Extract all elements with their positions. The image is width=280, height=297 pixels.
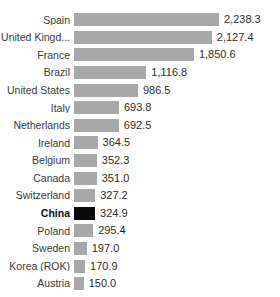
bar-track: 351.0 [74, 169, 280, 187]
value-label: 2,238.3 [219, 14, 261, 25]
bar-row: Korea (ROK)170.9 [0, 257, 280, 275]
bar-track: 692.5 [74, 117, 280, 135]
bar-row: Spain2,238.3 [0, 11, 280, 29]
bar-track: 693.8 [74, 99, 280, 117]
bar [74, 31, 212, 44]
category-label: Poland [0, 226, 74, 237]
bar [74, 66, 146, 79]
value-label: 1,116.8 [146, 67, 187, 78]
bar-row: Switzerland327.2 [0, 187, 280, 205]
bar-row: Canada351.0 [0, 169, 280, 187]
bar-track: 150.0 [74, 275, 280, 293]
bar [74, 119, 119, 132]
bar [74, 189, 95, 202]
value-label: 692.5 [119, 120, 152, 131]
value-label: 364.5 [98, 137, 131, 148]
value-label: 327.2 [95, 190, 128, 201]
bar [74, 101, 119, 114]
category-label: Sweden [0, 243, 74, 254]
value-label: 693.8 [119, 102, 152, 113]
category-label: Belgium [0, 155, 74, 166]
bar [74, 13, 219, 26]
bar-track: 986.5 [74, 81, 280, 99]
bar-row: Belgium352.3 [0, 152, 280, 170]
category-label: United Kingd... [0, 32, 74, 43]
category-label: Canada [0, 173, 74, 184]
bar-track: 1,116.8 [74, 64, 280, 82]
bar [74, 207, 95, 220]
bar-track: 197.0 [74, 240, 280, 258]
bar-row: Ireland364.5 [0, 134, 280, 152]
category-label: Brazil [0, 67, 74, 78]
bar-row: Sweden197.0 [0, 240, 280, 258]
category-label: Austria [0, 278, 74, 289]
bar [74, 224, 93, 237]
bar-track: 352.3 [74, 152, 280, 170]
value-label: 197.0 [87, 243, 120, 254]
bar-row: China324.9 [0, 205, 280, 223]
category-label: Ireland [0, 138, 74, 149]
category-label: China [0, 208, 74, 219]
horizontal-bar-chart: Spain2,238.3United Kingd...2,127.4France… [0, 0, 280, 297]
value-label: 352.3 [97, 155, 130, 166]
bar-track: 327.2 [74, 187, 280, 205]
value-label: 2,127.4 [212, 32, 254, 43]
bar [74, 136, 98, 149]
value-label: 324.9 [95, 208, 128, 219]
bar-row: Netherlands692.5 [0, 117, 280, 135]
bar-rows-container: Spain2,238.3United Kingd...2,127.4France… [0, 11, 280, 293]
bar-track: 295.4 [74, 222, 280, 240]
bar-row: United Kingd...2,127.4 [0, 29, 280, 47]
value-label: 150.0 [84, 278, 117, 289]
bar [74, 172, 97, 185]
bar [74, 242, 87, 255]
bar [74, 154, 97, 167]
bar-track: 364.5 [74, 134, 280, 152]
category-label: France [0, 50, 74, 61]
bar [74, 260, 85, 273]
value-label: 351.0 [97, 173, 130, 184]
bar-row: Italy693.8 [0, 99, 280, 117]
value-label: 170.9 [85, 261, 118, 272]
category-label: Switzerland [0, 190, 74, 201]
bar-track: 1,850.6 [74, 46, 280, 64]
category-label: Korea (ROK) [0, 261, 74, 272]
value-label: 295.4 [93, 225, 126, 236]
bar-track: 324.9 [74, 205, 280, 223]
category-label: Netherlands [0, 120, 74, 131]
bar-track: 170.9 [74, 257, 280, 275]
bar-row: Brazil1,116.8 [0, 64, 280, 82]
bar [74, 277, 84, 290]
bar [74, 48, 194, 61]
bar-row: United States986.5 [0, 81, 280, 99]
value-label: 986.5 [138, 85, 171, 96]
bar-row: Poland295.4 [0, 222, 280, 240]
bar-row: France1,850.6 [0, 46, 280, 64]
value-label: 1,850.6 [194, 49, 236, 60]
category-label: Spain [0, 15, 74, 26]
category-label: Italy [0, 103, 74, 114]
bar-track: 2,238.3 [74, 11, 280, 29]
bar-row: Austria150.0 [0, 275, 280, 293]
bar [74, 84, 138, 97]
bar-track: 2,127.4 [74, 29, 280, 47]
category-label: United States [0, 85, 74, 96]
